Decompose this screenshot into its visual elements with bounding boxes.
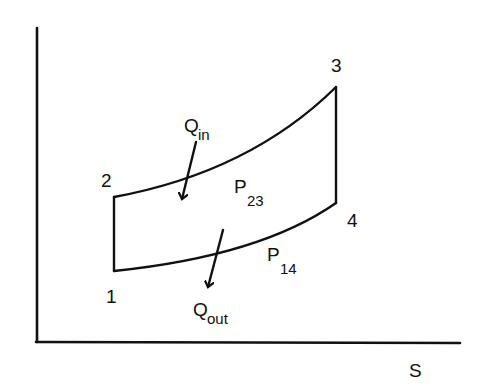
cycle — [114, 87, 336, 271]
ts-diagram: S 1 2 3 4 P 23 P 14 Q in Q out — [0, 0, 488, 390]
qin-main: Q — [184, 115, 199, 136]
process-2-3-isobar — [114, 87, 336, 197]
p14-sub: 14 — [280, 260, 297, 277]
heat-in: Q in — [182, 115, 210, 199]
p14-main: P — [267, 244, 280, 265]
qout-main: Q — [193, 299, 208, 320]
x-axis-label: S — [409, 360, 422, 381]
state-label-2: 2 — [101, 170, 112, 191]
p23-main: P — [234, 176, 247, 197]
qout-arrow-icon — [208, 230, 223, 287]
state-label-3: 3 — [331, 55, 342, 76]
qin-arrow-icon — [182, 142, 196, 199]
isobar-label-p14: P 14 — [267, 244, 297, 277]
heat-out: Q out — [193, 230, 229, 327]
x-axis — [36, 342, 460, 343]
isobar-label-p23: P 23 — [234, 176, 264, 209]
state-label-4: 4 — [347, 210, 358, 231]
qin-sub: in — [198, 126, 210, 143]
state-label-1: 1 — [106, 286, 117, 307]
process-4-1-isobar — [114, 203, 336, 271]
qout-sub: out — [207, 310, 229, 327]
p23-sub: 23 — [247, 192, 264, 209]
